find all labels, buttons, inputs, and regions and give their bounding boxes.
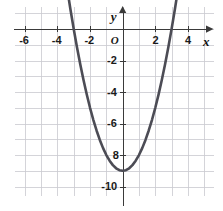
origin-label: O	[111, 35, 119, 46]
x-tick-label-2: 2	[152, 35, 158, 46]
y-axis-arrow-icon	[119, 6, 126, 13]
y-tick-label--10: -10	[101, 181, 117, 192]
y-tick-label--4: -4	[107, 87, 117, 98]
coordinate-plane-figure: -6-4-224-2-4-68-10Oxy	[0, 0, 223, 211]
x-tick-label--2: -2	[84, 35, 94, 46]
y-axis-label: y	[111, 10, 117, 23]
x-axis-label: x	[203, 35, 210, 48]
y-tick-label--2: -2	[107, 55, 117, 66]
x-tick-label--6: -6	[19, 35, 29, 46]
tick-marks	[26, 26, 189, 187]
y-tick-label--8: 8	[113, 150, 119, 161]
x-tick-label-4: 4	[185, 35, 191, 46]
x-tick-label--4: -4	[52, 35, 62, 46]
y-tick-label--6: -6	[107, 118, 117, 129]
x-axis-arrow-icon	[206, 25, 214, 32]
